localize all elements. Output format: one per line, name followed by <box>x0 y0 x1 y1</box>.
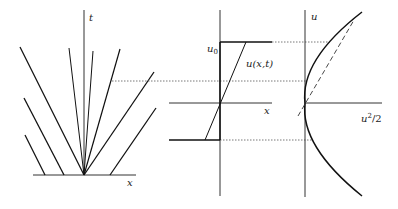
characteristic-line <box>110 108 156 175</box>
fan-line <box>84 51 93 175</box>
profile-label: u(x,t) <box>246 58 273 69</box>
profile-panel: u0 u(x,t) x <box>169 10 273 196</box>
characteristics-panel: t x <box>20 10 156 188</box>
fan-line <box>84 49 120 175</box>
characteristic-line <box>24 98 64 175</box>
flux-curve <box>305 12 362 196</box>
flux-axis-label: u2/2 <box>361 112 382 124</box>
rarefaction-profile <box>205 42 246 140</box>
characteristic-line <box>20 47 84 175</box>
characteristic-line <box>84 72 154 175</box>
riemann-diagram: t x u0 u(x,t) x u u2/2 <box>0 0 398 209</box>
u-axis-label: u <box>311 11 317 22</box>
characteristic-line <box>25 135 45 175</box>
flux-panel: u u2/2 <box>298 10 382 197</box>
x-axis-label: x <box>127 177 133 188</box>
tangent-line <box>298 20 354 116</box>
fan-line <box>69 48 84 175</box>
x-axis-label: x <box>264 105 270 116</box>
t-axis-label: t <box>89 12 94 23</box>
u0-label: u0 <box>207 43 218 56</box>
